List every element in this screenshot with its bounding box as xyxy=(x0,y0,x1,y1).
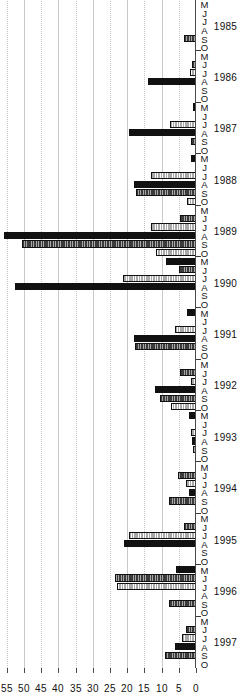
value-tick xyxy=(162,668,163,673)
bar xyxy=(129,532,196,539)
bar xyxy=(115,575,196,582)
year-tick xyxy=(196,256,201,257)
bar xyxy=(151,172,196,179)
year-label: 1985 xyxy=(206,20,246,31)
year-tick xyxy=(196,153,201,154)
bar xyxy=(156,249,196,256)
year-label: 1997 xyxy=(206,637,246,648)
bar xyxy=(136,189,196,196)
bar xyxy=(117,583,196,590)
bar xyxy=(175,643,196,650)
year-label: 1996 xyxy=(206,585,246,596)
bar xyxy=(4,232,196,239)
value-axis-label: 55 xyxy=(0,680,20,696)
year-tick xyxy=(196,307,201,308)
bar xyxy=(178,472,196,479)
year-tick xyxy=(196,564,201,565)
value-tick xyxy=(127,668,128,673)
bar xyxy=(169,600,196,607)
bar xyxy=(134,335,196,342)
bar xyxy=(148,78,196,85)
year-tick xyxy=(196,359,201,360)
value-tick xyxy=(24,668,25,673)
bar xyxy=(124,540,196,547)
month-label: O xyxy=(198,658,212,669)
bar xyxy=(180,215,197,222)
bar xyxy=(135,343,196,350)
bar xyxy=(166,258,196,265)
year-label: 1986 xyxy=(206,72,246,83)
value-tick xyxy=(144,668,145,673)
bar xyxy=(170,121,196,128)
bar xyxy=(123,275,196,282)
bar xyxy=(160,395,196,402)
year-tick xyxy=(196,461,201,462)
plot-area: 0510152025303540455055 xyxy=(0,0,196,668)
year-tick xyxy=(196,513,201,514)
value-tick xyxy=(76,668,77,673)
bar xyxy=(129,129,196,136)
year-label: 1991 xyxy=(206,329,246,340)
year-label: 1990 xyxy=(206,277,246,288)
value-tick xyxy=(179,668,180,673)
year-label: 1992 xyxy=(206,380,246,391)
bar xyxy=(179,266,196,273)
bar xyxy=(176,566,196,573)
bar xyxy=(134,181,196,188)
year-label: 1988 xyxy=(206,174,246,185)
year-label: 1987 xyxy=(206,123,246,134)
year-tick xyxy=(196,205,201,206)
value-tick xyxy=(41,668,42,673)
bar xyxy=(169,497,197,504)
time-axis: MJJASOMJJASOMJJASOMJJASOMJJASOMJJASOMJJA… xyxy=(196,0,252,668)
value-tick xyxy=(110,668,111,673)
year-label: 1993 xyxy=(206,431,246,442)
bar xyxy=(171,403,196,410)
year-label: 1994 xyxy=(206,483,246,494)
bar xyxy=(155,386,196,393)
bar xyxy=(151,223,196,230)
value-tick xyxy=(58,668,59,673)
bar xyxy=(22,241,196,248)
year-label: 1995 xyxy=(206,534,246,545)
value-tick xyxy=(93,668,94,673)
bar xyxy=(175,326,196,333)
bar xyxy=(165,652,196,659)
year-tick xyxy=(196,50,201,51)
bar xyxy=(15,283,196,290)
year-tick xyxy=(196,410,201,411)
year-tick xyxy=(196,102,201,103)
value-tick xyxy=(7,668,8,673)
year-label: 1989 xyxy=(206,226,246,237)
bar-series-group xyxy=(0,0,196,668)
year-tick xyxy=(196,616,201,617)
